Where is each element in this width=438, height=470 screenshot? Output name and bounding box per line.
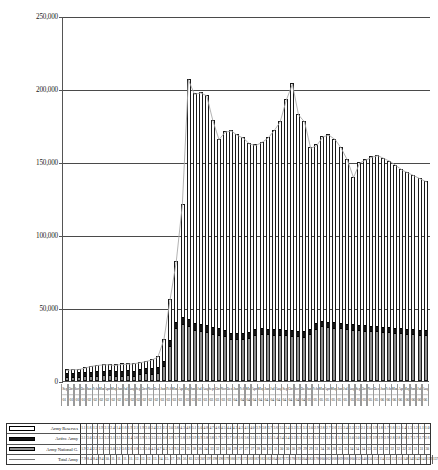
table-row[interactable] [241, 137, 245, 381]
table-row[interactable] [77, 369, 81, 381]
table-row[interactable] [162, 339, 166, 381]
table-row[interactable] [144, 361, 148, 381]
table-row[interactable] [156, 356, 160, 381]
x-axis-year-label: 04 [289, 394, 293, 404]
table-row[interactable] [247, 143, 251, 381]
y-tick-label: 0 [0, 378, 58, 386]
table-row[interactable] [357, 162, 361, 381]
x-axis-tick: Sep05 [355, 384, 362, 406]
table-row[interactable] [138, 362, 142, 381]
table-row[interactable] [351, 177, 355, 381]
table-row[interactable] [369, 156, 373, 381]
x-axis-year-label: 05 [350, 394, 354, 404]
table-row[interactable] [120, 363, 124, 381]
table-row[interactable] [405, 172, 409, 381]
table-row[interactable] [199, 92, 203, 381]
x-axis-year-label: 05 [344, 394, 348, 404]
table-row[interactable] [95, 365, 99, 381]
bar-segment-army-national-guard [182, 324, 184, 380]
table-row[interactable] [424, 181, 428, 381]
plot-wrapper: 050,000100,000150,000200,000250,000 Sep0… [0, 0, 437, 390]
table-row[interactable] [83, 367, 87, 381]
x-axis-year-label: 03 [160, 394, 164, 404]
x-axis-year-label: 03 [221, 394, 225, 404]
table-row[interactable] [229, 130, 233, 381]
table-row[interactable] [235, 134, 239, 381]
legend-label-cell: Army Reserves [7, 424, 81, 433]
x-axis-month-label: Feb [239, 384, 245, 394]
table-row[interactable] [193, 93, 197, 381]
x-axis-month-label: Jun [117, 384, 122, 394]
table-row[interactable] [278, 121, 282, 381]
x-axis-year-label: 02 [118, 394, 122, 404]
table-row[interactable] [266, 137, 270, 381]
x-axis-year-label: 02 [124, 394, 128, 404]
table-row[interactable] [387, 161, 391, 381]
table-row[interactable] [253, 144, 257, 381]
table-row[interactable] [174, 261, 178, 381]
table-row[interactable] [217, 139, 221, 381]
legend-series-name: Active Army [37, 436, 78, 441]
table-row[interactable] [302, 121, 306, 381]
legend-row: Army National G.1.92.42.52.52.53.03.23.6… [7, 445, 430, 455]
table-row[interactable] [290, 83, 294, 381]
table-row[interactable] [411, 175, 415, 381]
table-row[interactable] [108, 364, 112, 381]
table-row[interactable] [205, 95, 209, 381]
table-row[interactable] [187, 79, 191, 381]
table-row[interactable] [102, 364, 106, 381]
table-row[interactable] [296, 114, 300, 381]
x-axis-month-label: May [257, 384, 264, 394]
x-axis-year-label: 02 [136, 394, 140, 404]
table-row[interactable] [65, 369, 69, 381]
x-axis-year-label: 03 [197, 394, 201, 404]
x-axis-year-label: 02 [148, 394, 152, 404]
table-row[interactable] [320, 136, 324, 381]
legend-data-table: Army Reserves1.11.61.51.92.12.41.41.61.9… [6, 423, 431, 465]
x-axis-year-label: 04 [301, 394, 305, 404]
bar-segment-army-national-guard [425, 335, 427, 380]
table-row[interactable] [71, 369, 75, 381]
table-row[interactable] [332, 139, 336, 381]
x-axis-year-label: 04 [234, 394, 238, 404]
x-axis-month-label: Aug [349, 384, 356, 394]
legend-value-cell: 1.0 [425, 424, 430, 433]
table-row[interactable] [211, 120, 215, 381]
table-row[interactable] [314, 144, 318, 381]
table-row[interactable] [114, 364, 118, 381]
table-row[interactable] [393, 165, 397, 381]
bar-segment-army-reserves [248, 144, 250, 332]
table-row[interactable] [308, 147, 312, 381]
table-row[interactable] [339, 147, 343, 381]
table-row[interactable] [272, 130, 276, 381]
bar-segment-army-reserves [133, 364, 135, 371]
table-row[interactable] [150, 359, 154, 381]
table-row[interactable] [381, 158, 385, 381]
table-row[interactable] [375, 155, 379, 381]
table-row[interactable] [326, 134, 330, 381]
x-axis-month-label: Apr [398, 384, 404, 394]
x-axis-tick: Dec01 [80, 384, 87, 406]
bar-segment-army-reserves [261, 143, 263, 328]
table-row[interactable] [418, 178, 422, 381]
table-row[interactable] [168, 299, 172, 381]
x-axis-month-label: Oct [361, 384, 367, 394]
table-row[interactable] [89, 366, 93, 381]
table-row[interactable] [126, 363, 130, 381]
table-row[interactable] [132, 363, 136, 381]
table-row[interactable] [399, 169, 403, 381]
x-axis-month-label: Apr [324, 384, 330, 394]
table-row[interactable] [223, 131, 227, 381]
bar-segment-army-national-guard [175, 328, 177, 380]
table-row[interactable] [363, 159, 367, 381]
table-row[interactable] [260, 142, 264, 381]
bar-segment-army-national-guard [321, 326, 323, 380]
table-row[interactable] [181, 204, 185, 381]
x-axis-month-label: Jul [124, 384, 129, 394]
legend-label-cell: Army National G. [7, 445, 81, 454]
x-axis-year-label: 04 [246, 394, 250, 404]
legend-label-cell: Total Army [7, 455, 81, 464]
table-row[interactable] [284, 99, 288, 381]
table-row[interactable] [345, 159, 349, 381]
x-axis-tick: Mar04 [245, 384, 252, 406]
